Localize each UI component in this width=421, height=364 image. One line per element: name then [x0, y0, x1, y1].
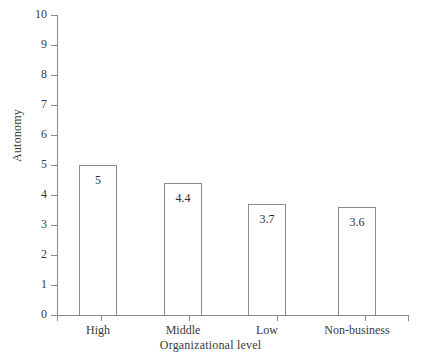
y-tick-label-1: 1 [41, 276, 47, 292]
bar-high[interactable]: 5 [79, 165, 117, 315]
y-tick-label-9: 9 [41, 36, 47, 52]
y-tick-label-4: 4 [41, 186, 47, 202]
bar-value-middle: 4.4 [165, 191, 201, 205]
x-tick-4 [365, 315, 366, 321]
y-tick-label-5: 5 [41, 156, 47, 172]
x-category-label-high: High [58, 322, 138, 338]
bar-value-low: 3.7 [249, 212, 285, 226]
x-tick-2 [189, 315, 190, 321]
plot-area: 10 9 8 7 6 5 4 3 2 1 0 5 4.4 3.7 3.6 Hig… [57, 15, 409, 315]
x-category-label-low: Low [227, 322, 307, 338]
y-tick-5: 5 [51, 165, 57, 166]
y-tick-4: 4 [51, 195, 57, 196]
x-tick-5 [408, 315, 409, 321]
y-tick-label-10: 10 [35, 6, 47, 22]
y-tick-6: 6 [51, 135, 57, 136]
y-tick-9: 9 [51, 45, 57, 46]
y-axis-line [57, 15, 58, 315]
x-category-label-middle: Middle [143, 322, 223, 338]
y-tick-label-8: 8 [41, 66, 47, 82]
x-axis-title: Organizational level [0, 338, 421, 353]
x-tick-1 [101, 315, 102, 321]
y-axis-title: Autonomy [10, 86, 25, 186]
bar-value-high: 5 [80, 173, 116, 187]
bar-middle[interactable]: 4.4 [164, 183, 202, 315]
x-tick-3 [277, 315, 278, 321]
y-tick-10: 10 [51, 15, 57, 16]
y-tick-2: 2 [51, 255, 57, 256]
y-tick-label-6: 6 [41, 126, 47, 142]
y-tick-label-3: 3 [41, 216, 47, 232]
y-tick-label-0: 0 [41, 306, 47, 322]
bar-non-business[interactable]: 3.6 [338, 207, 376, 315]
bar-value-non-business: 3.6 [339, 215, 375, 229]
x-tick-0 [57, 315, 58, 321]
bar-low[interactable]: 3.7 [248, 204, 286, 315]
y-tick-label-7: 7 [41, 96, 47, 112]
x-category-label-non-business: Non-business [305, 322, 409, 338]
y-tick-7: 7 [51, 105, 57, 106]
bar-chart: Autonomy 10 9 8 7 6 5 4 3 2 1 0 5 4.4 3.… [0, 0, 421, 364]
y-tick-label-2: 2 [41, 246, 47, 262]
x-axis-line [57, 315, 409, 316]
y-tick-1: 1 [51, 285, 57, 286]
y-tick-8: 8 [51, 75, 57, 76]
y-tick-3: 3 [51, 225, 57, 226]
